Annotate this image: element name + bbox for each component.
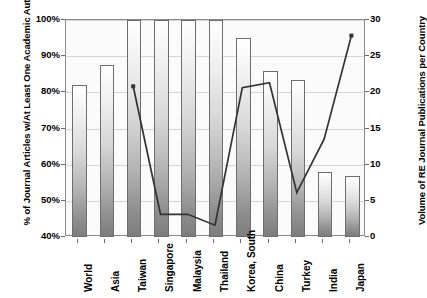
y-axis-right-tick-mark xyxy=(365,19,369,20)
x-axis-category-label: Thailand xyxy=(220,251,230,292)
x-axis-tick-mark xyxy=(349,239,350,243)
y-axis-right-tick-mark xyxy=(365,164,369,165)
x-axis-tick-mark xyxy=(268,239,269,243)
y-axis-left-title: % of Journal Articles w/At Least One Aca… xyxy=(21,6,32,226)
x-axis-category-label: Malaysia xyxy=(193,250,203,292)
y-axis-right-tick-label: 25 xyxy=(370,50,400,60)
x-axis-tick-mark xyxy=(240,239,241,243)
line-marker xyxy=(349,34,353,38)
line-marker xyxy=(131,84,135,88)
y-axis-left-tick-label: 80% xyxy=(26,86,60,96)
x-axis-category-label: Turkey xyxy=(302,260,312,292)
x-axis-category-label: India xyxy=(329,269,339,292)
y-axis-left-tick-mark xyxy=(61,91,65,92)
x-axis-category-label: World xyxy=(84,264,94,292)
y-axis-left-tick-mark xyxy=(61,200,65,201)
y-axis-right-tick-mark xyxy=(365,55,369,56)
x-axis-category-label: Korea, South xyxy=(247,230,257,292)
x-axis-tick-mark xyxy=(77,239,78,243)
y-axis-right-tick-label: 20 xyxy=(370,86,400,96)
line-series xyxy=(65,19,365,236)
y-axis-right-tick-label: 10 xyxy=(370,159,400,169)
y-axis-left-tick-label: 60% xyxy=(26,159,60,169)
y-axis-right-title: Volume of RE Journal Publications per Co… xyxy=(416,11,427,231)
x-axis-tick-mark xyxy=(131,239,132,243)
y-axis-left-tick-mark xyxy=(61,236,65,237)
x-axis-category-label: China xyxy=(275,264,285,292)
y-axis-left-tick-label: 50% xyxy=(26,195,60,205)
y-axis-right-tick-mark xyxy=(365,128,369,129)
y-axis-left-tick-label: 90% xyxy=(26,50,60,60)
y-axis-left-tick-mark xyxy=(61,164,65,165)
y-axis-right-tick-label: 30 xyxy=(370,14,400,24)
y-axis-left-tick-label: 70% xyxy=(26,123,60,133)
y-axis-right-tick-label: 5 xyxy=(370,195,400,205)
y-axis-left-tick-mark xyxy=(61,128,65,129)
y-axis-right-tick-mark xyxy=(365,91,369,92)
x-axis-category-label: Asia xyxy=(111,271,121,292)
line-path xyxy=(133,36,351,226)
x-axis-category-label: Taiwan xyxy=(138,259,148,292)
x-axis-category-label: Singapore xyxy=(165,243,175,292)
y-axis-right-tick-label: 0 xyxy=(370,231,400,241)
y-axis-left-tick-mark xyxy=(61,19,65,20)
x-axis-category-label: Japan xyxy=(356,263,366,292)
x-axis-tick-mark xyxy=(186,239,187,243)
y-axis-right-tick-mark xyxy=(365,236,369,237)
y-axis-right-tick-mark xyxy=(365,200,369,201)
x-axis-tick-mark xyxy=(213,239,214,243)
y-axis-left-tick-label: 100% xyxy=(26,14,60,24)
x-axis-tick-mark xyxy=(158,239,159,243)
x-axis-tick-mark xyxy=(104,239,105,243)
y-axis-left-tick-mark xyxy=(61,55,65,56)
x-axis-tick-mark xyxy=(295,239,296,243)
x-axis-tick-mark xyxy=(322,239,323,243)
y-axis-left-tick-label: 40% xyxy=(26,231,60,241)
y-axis-right-tick-label: 15 xyxy=(370,123,400,133)
